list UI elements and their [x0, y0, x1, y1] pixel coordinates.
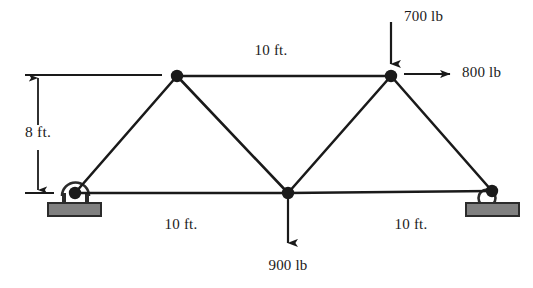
member-C-E: [288, 191, 492, 193]
roller-support-base-plate: [466, 203, 519, 216]
load-label-800lb: 800 lb: [462, 64, 501, 81]
pin-support-base-plate: [48, 203, 101, 216]
bottom-right-dimension-label: 10 ft.: [395, 216, 428, 233]
height-dimension-label: 8 ft.: [25, 123, 51, 141]
top-chord-dimension-label: 10 ft.: [255, 42, 288, 59]
joint-node-E: [486, 185, 498, 197]
joint-node-A: [69, 187, 81, 199]
bottom-left-dimension-label: 10 ft.: [165, 216, 198, 233]
load-label-900lb: 900 lb: [268, 257, 307, 274]
member-A-B: [75, 76, 177, 193]
truss-members: [75, 76, 492, 193]
load-label-700lb: 700 lb: [404, 8, 443, 25]
truss-diagram-figure: 10 ft. 8 ft. 10 ft. 10 ft. 700 lb 800 lb…: [0, 0, 533, 288]
member-B-C: [177, 76, 288, 193]
member-D-E: [391, 76, 492, 191]
truss-joints: [69, 70, 498, 199]
joint-node-B: [171, 70, 183, 82]
member-C-D: [288, 76, 391, 193]
joint-node-D: [385, 70, 397, 82]
joint-node-C: [282, 187, 294, 199]
